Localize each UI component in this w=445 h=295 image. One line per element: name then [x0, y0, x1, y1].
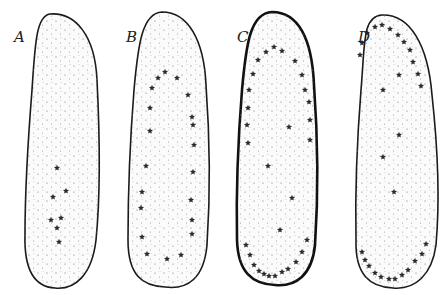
star-granule-icon	[357, 52, 363, 58]
panel-label-d: D	[357, 28, 370, 46]
cytoplasm-stipple-b	[128, 12, 209, 287]
panel-d: D	[356, 15, 438, 288]
panel-c: C	[237, 12, 317, 285]
figure-canvas: A B C D	[0, 0, 445, 295]
panel-label-b: B	[125, 28, 137, 46]
cytoplasm-stipple-c	[237, 12, 317, 285]
cytoplasm-stipple-a	[25, 14, 99, 288]
panel-a: A	[12, 14, 99, 288]
panel-label-a: A	[12, 28, 25, 46]
panel-b: B	[125, 12, 209, 287]
panel-label-c: C	[237, 28, 249, 46]
